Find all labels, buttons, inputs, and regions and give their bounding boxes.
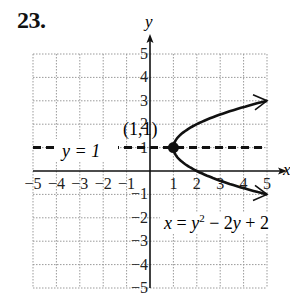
y-tick-label: −4 (131, 256, 148, 273)
x-tick-label: −4 (48, 175, 65, 192)
vertex-label: (1,1) (123, 119, 158, 140)
line-equation-label: y = 1 (60, 141, 100, 161)
y-tick-label: −2 (131, 209, 148, 226)
x-tick-label: 1 (169, 175, 177, 192)
x-tick-label: 2 (193, 175, 201, 192)
x-tick-label: 3 (216, 175, 224, 192)
y-tick-label: −1 (131, 185, 148, 202)
x-tick-label: −5 (24, 175, 41, 192)
y-tick-label: −3 (131, 232, 148, 249)
x-axis-label: x (282, 160, 290, 179)
y-tick-label: 5 (140, 45, 148, 62)
x-tick-label: −3 (71, 175, 88, 192)
y-tick-label: −5 (131, 279, 148, 296)
curve-equation-label: x = y2 − 2y + 2 (163, 212, 269, 233)
y-tick-label: 4 (140, 68, 148, 85)
parabola-graph: −5−4−3−2−11234554321−1−2−3−4−5 y x (1,1)… (0, 0, 290, 306)
y-tick-label: 3 (140, 92, 148, 109)
x-tick-label: 5 (263, 175, 271, 192)
vertex-point (168, 142, 179, 153)
x-tick-label: −2 (95, 175, 112, 192)
y-axis-label: y (143, 12, 153, 31)
